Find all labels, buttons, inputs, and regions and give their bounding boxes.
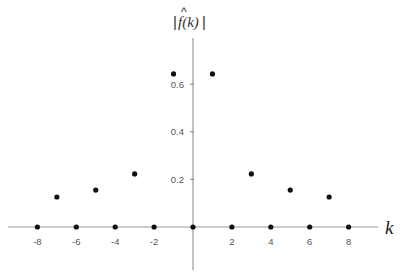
data-point [229, 224, 234, 229]
data-point [171, 71, 176, 76]
x-ticks: -8-6-4-22468 [33, 236, 351, 247]
x-tick-label: 6 [307, 236, 312, 247]
x-tick-label: -4 [111, 236, 119, 247]
y-tick-label: 0.4 [171, 126, 184, 137]
y-label-hat: ^ [181, 5, 187, 19]
data-point [307, 224, 312, 229]
data-point [346, 224, 351, 229]
data-point [54, 194, 59, 199]
x-tick-label: -2 [150, 236, 158, 247]
data-point [113, 224, 118, 229]
x-axis-label: k [385, 217, 394, 238]
data-point [74, 224, 79, 229]
y-ticks: 0.20.40.6 [171, 79, 194, 185]
data-point [132, 171, 137, 176]
y-tick-label: 0.6 [171, 79, 184, 90]
x-tick-label: 4 [268, 236, 273, 247]
x-tick-label: -6 [72, 236, 80, 247]
data-point [268, 224, 273, 229]
data-point [327, 194, 332, 199]
axes [8, 38, 378, 270]
x-tick-label: 2 [229, 236, 234, 247]
y-tick-label: 0.2 [171, 174, 184, 185]
x-tick-label: 8 [346, 236, 351, 247]
data-point [35, 224, 40, 229]
data-point [210, 71, 215, 76]
y-label-bar-right: | [202, 13, 206, 30]
data-point [249, 171, 254, 176]
fourier-coefficient-plot: 0.20.40.6 -8-6-4-22468 k | f(k) ^ | [0, 0, 403, 280]
data-point [93, 188, 98, 193]
y-label-bar-left: | [173, 13, 177, 30]
x-tick-label: -8 [33, 236, 41, 247]
y-axis-label: | f(k) ^ | [173, 5, 206, 31]
data-point [288, 188, 293, 193]
data-point [152, 224, 157, 229]
data-point [190, 224, 195, 229]
